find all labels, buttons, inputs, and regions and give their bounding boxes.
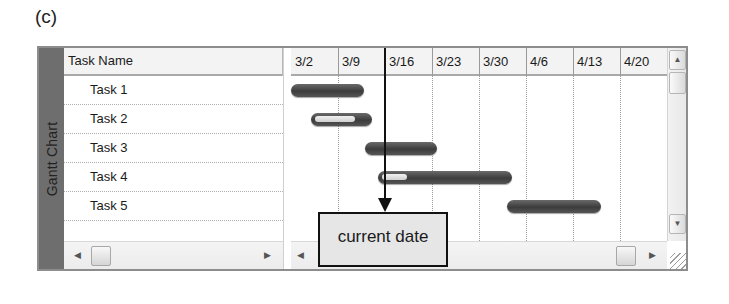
- column-separator: [338, 48, 339, 76]
- gantt-chart-panel: Gantt Chart Task Name Task 1 Task 2 Task…: [37, 46, 688, 271]
- resize-grip-icon[interactable]: [670, 253, 686, 269]
- timeline-column-label: 3/30: [483, 54, 508, 69]
- callout-label: current date: [338, 227, 429, 246]
- column-separator: [573, 48, 574, 76]
- scroll-down-button[interactable]: ▼: [669, 214, 686, 234]
- task-name-column-header[interactable]: Task Name: [64, 48, 283, 76]
- scroll-right-icon[interactable]: ▶: [264, 250, 271, 260]
- scroll-thumb[interactable]: [616, 246, 636, 266]
- scroll-thumb[interactable]: [91, 246, 111, 266]
- current-date-callout: current date: [318, 212, 448, 267]
- side-title: Gantt Chart: [44, 121, 60, 196]
- task-name: Task 5: [90, 198, 128, 213]
- week-gridline: [479, 76, 480, 241]
- task-row[interactable]: Task 5: [64, 192, 283, 221]
- task-grid-horizontal-scrollbar[interactable]: ◀ ▶: [64, 241, 283, 269]
- timeline-column-label: 3/2: [295, 54, 313, 69]
- timeline-column-label: 4/6: [530, 54, 548, 69]
- scroll-down-icon: ▼: [674, 219, 682, 228]
- column-separator: [526, 48, 527, 76]
- task-row[interactable]: Task 4: [64, 163, 283, 192]
- scroll-up-icon: ▲: [674, 55, 682, 64]
- task-row[interactable]: Task 3: [64, 134, 283, 163]
- scroll-up-button[interactable]: ▲: [669, 50, 686, 70]
- column-separator: [620, 48, 621, 76]
- arrow-down-icon: [378, 198, 392, 212]
- scroll-thumb[interactable]: [669, 72, 686, 94]
- task-bar[interactable]: [365, 142, 436, 155]
- scroll-right-icon[interactable]: ▶: [649, 250, 656, 260]
- side-title-band: Gantt Chart: [39, 48, 64, 269]
- task-row[interactable]: Task 2: [64, 105, 283, 134]
- current-date-line: [384, 48, 386, 198]
- timeline-column-label: 4/20: [624, 54, 649, 69]
- task-bar[interactable]: [378, 171, 512, 184]
- timeline-column-label: 3/16: [389, 54, 414, 69]
- task-bar[interactable]: [507, 200, 601, 213]
- task-name: Task 2: [90, 111, 128, 126]
- week-gridline: [620, 76, 621, 241]
- timeline-column-label: 3/23: [436, 54, 461, 69]
- task-name: Task 3: [90, 140, 128, 155]
- timeline-header: 3/23/93/163/233/304/64/134/20: [291, 48, 667, 76]
- week-gridline: [573, 76, 574, 241]
- timeline-column-label: 3/9: [342, 54, 360, 69]
- week-gridline: [526, 76, 527, 241]
- task-row[interactable]: Task 1: [64, 76, 283, 105]
- column-separator: [432, 48, 433, 76]
- task-bar[interactable]: [311, 113, 372, 126]
- task-bar[interactable]: [291, 84, 364, 97]
- figure-label: (c): [35, 6, 57, 28]
- task-progress: [315, 116, 355, 122]
- column-separator: [479, 48, 480, 76]
- splitter[interactable]: [283, 48, 291, 269]
- task-name: Task 4: [90, 169, 128, 184]
- timeline-column-label: 4/13: [577, 54, 602, 69]
- task-grid: Task Name Task 1 Task 2 Task 3 Task 4 Ta…: [64, 48, 283, 241]
- scroll-left-icon[interactable]: ◀: [74, 250, 81, 260]
- task-name: Task 1: [90, 82, 128, 97]
- task-name-header-label: Task Name: [68, 53, 133, 68]
- scroll-left-icon[interactable]: ◀: [297, 250, 304, 260]
- timeline-vertical-scrollbar[interactable]: ▲ ▼: [667, 48, 686, 241]
